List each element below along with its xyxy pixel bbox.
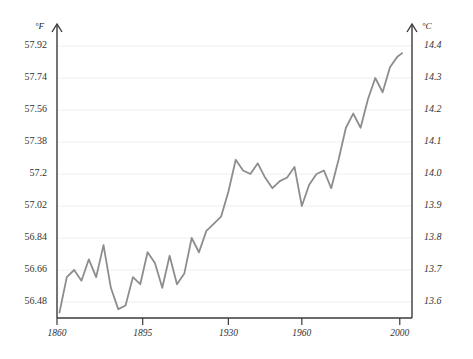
y-axis-tick-label: 57.38 <box>0 135 47 146</box>
y2-axis-tick-label: 14.2 <box>424 103 442 114</box>
y-axis-tick-label: 57.92 <box>0 39 47 50</box>
y-axis-tick-label: 57.02 <box>0 199 47 210</box>
y-axis-tick-label: 56.48 <box>0 295 47 306</box>
y2-axis-tick-label: 14.0 <box>424 167 442 178</box>
x-axis-tick-label: 1930 <box>203 328 253 338</box>
y2-axis-tick-label: 13.6 <box>424 295 442 306</box>
y2-axis-tick-label: 13.8 <box>424 231 442 242</box>
axis-lines <box>52 24 417 318</box>
y-axis-tick-label: 57.2 <box>0 167 47 178</box>
chart-canvas <box>0 0 473 359</box>
data-series-line <box>59 53 402 313</box>
x-axis-tick-label: 2000 <box>375 328 425 338</box>
temperature-line-chart: °F °C 56.4813.656.6613.756.8413.857.0213… <box>0 0 473 359</box>
y-axis-tick-label: 56.66 <box>0 263 47 274</box>
y2-axis-tick-label: 14.1 <box>424 135 442 146</box>
y-axis-tick-label: 57.74 <box>0 71 47 82</box>
x-axis-tick-label: 1860 <box>32 328 82 338</box>
x-axis-ticks <box>57 318 400 325</box>
y-axis-tick-label: 57.56 <box>0 103 47 114</box>
y-axis-tick-label: 56.84 <box>0 231 47 242</box>
y2-axis-tick-label: 14.3 <box>424 71 442 82</box>
x-axis-tick-label: 1895 <box>118 328 168 338</box>
y2-axis-tick-label: 13.7 <box>424 263 442 274</box>
y2-axis-tick-label: 14.4 <box>424 39 442 50</box>
y2-axis-tick-label: 13.9 <box>424 199 442 210</box>
x-axis-tick-label: 1960 <box>277 328 327 338</box>
gridlines <box>57 46 412 302</box>
